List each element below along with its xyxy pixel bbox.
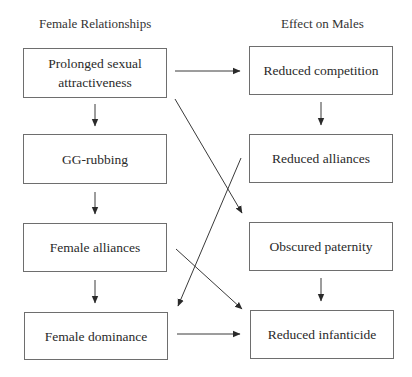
- arrow-prolonged-to-paternity: [175, 99, 242, 213]
- arrow-reduced-alliances-to-dominance: [178, 158, 241, 306]
- arrow-layer: [0, 0, 412, 377]
- arrow-alliances-to-infanticide: [176, 249, 242, 309]
